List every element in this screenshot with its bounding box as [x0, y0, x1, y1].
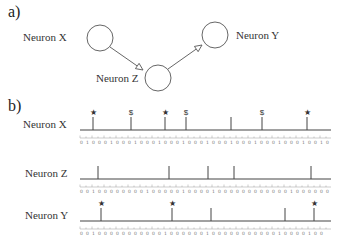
bit-digit: 0: [200, 140, 203, 145]
bit-digit: 0: [134, 189, 137, 194]
bit-digit: 0: [80, 231, 83, 236]
bit-digit: 0: [248, 189, 251, 194]
bit-digit: 0: [194, 231, 197, 236]
bit-digit: 0: [98, 140, 101, 145]
bit-digit: 0: [224, 231, 227, 236]
bit-digit: 0: [320, 189, 323, 194]
bit-digit: 1: [254, 140, 257, 145]
bit-digit: 1: [164, 231, 167, 236]
bit-digit: 0: [212, 231, 215, 236]
bit-digit: 0: [170, 140, 173, 145]
bit-digit: 1: [110, 140, 113, 145]
bit-digit: 0: [272, 189, 275, 194]
bit-digit: 1: [146, 189, 149, 194]
bit-digit: 0: [128, 189, 131, 194]
bit-digit: 0: [212, 140, 215, 145]
bit-digit: 0: [176, 231, 179, 236]
bit-digit: 0: [296, 231, 299, 236]
bit-digit: 0: [308, 189, 311, 194]
bit-digit: 0: [152, 231, 155, 236]
bit-digit: 0: [302, 189, 305, 194]
synapse-triangle-icon: [194, 45, 202, 52]
bit-digit: 0: [260, 189, 263, 194]
bit-digit: 0: [296, 189, 299, 194]
neuron-z-circle: [145, 65, 171, 91]
bit-digit: 1: [290, 189, 293, 194]
bit-digit: 0: [272, 231, 275, 236]
bit-digit: 0: [158, 231, 161, 236]
neuron-x-circle: [87, 25, 113, 51]
bit-digit: 0: [314, 189, 317, 194]
bit-digit: 0: [86, 189, 89, 194]
bit-digit: 0: [194, 140, 197, 145]
bit-digit: 0: [116, 189, 119, 194]
bit-digit: 0: [242, 189, 245, 194]
bit-digit: 0: [128, 140, 131, 145]
bit-digit: 0: [122, 231, 125, 236]
star-marker-icon: ★: [162, 108, 169, 117]
bit-digit: 0: [176, 140, 179, 145]
bit-digit: 1: [230, 140, 233, 145]
star-marker-icon: ★: [169, 199, 176, 208]
bit-digit: 1: [206, 140, 209, 145]
bit-digit: 0: [284, 189, 287, 194]
bit-digit: 0: [200, 231, 203, 236]
bit-digit: 0: [314, 140, 317, 145]
dollar-marker-icon: $: [184, 108, 189, 117]
bit-digit: 0: [308, 140, 311, 145]
bit-digit: 0: [302, 231, 305, 236]
bit-digit: 1: [302, 140, 305, 145]
star-marker-icon: ★: [98, 199, 105, 208]
bit-digit: 0: [158, 189, 161, 194]
bit-digit: 0: [242, 231, 245, 236]
bit-digit: 0: [170, 231, 173, 236]
bit-digit: 0: [86, 231, 89, 236]
bit-digit: 0: [188, 189, 191, 194]
bit-digit: 0: [206, 189, 209, 194]
bit-digit: 0: [218, 189, 221, 194]
bit-digit: 1: [182, 189, 185, 194]
neuron-diagram: ★$★$$★0100010001000100010001000100010001…: [0, 0, 344, 243]
bit-digit: 0: [140, 231, 143, 236]
bit-digit: 0: [284, 140, 287, 145]
bit-digit: 0: [290, 140, 293, 145]
bit-digit: 0: [266, 189, 269, 194]
bit-digit: 1: [278, 231, 281, 236]
bit-digit: 0: [218, 231, 221, 236]
bit-digit: 1: [158, 140, 161, 145]
star-marker-icon: ★: [311, 199, 318, 208]
bit-digit: 0: [80, 189, 83, 194]
bit-digit: 1: [212, 189, 215, 194]
bit-digit: 0: [260, 140, 263, 145]
bit-digit: 0: [272, 140, 275, 145]
bit-digit: 0: [110, 189, 113, 194]
bit-digit: 0: [98, 231, 101, 236]
bit-digit: 0: [146, 231, 149, 236]
bit-digit: 0: [248, 231, 251, 236]
bit-digit: 0: [278, 189, 281, 194]
bit-digit: 1: [182, 140, 185, 145]
bit-digit: 0: [122, 140, 125, 145]
bit-digit: 0: [140, 140, 143, 145]
synapse-triangle-icon: [135, 63, 143, 70]
bit-digit: 0: [236, 231, 239, 236]
bit-digit: 0: [296, 140, 299, 145]
connection-z-y: [168, 49, 196, 69]
bit-digit: 0: [224, 140, 227, 145]
bit-digit: 0: [230, 189, 233, 194]
dollar-marker-icon: $: [129, 108, 134, 117]
bit-digit: 1: [92, 231, 95, 236]
bit-digit: 0: [188, 140, 191, 145]
bit-digit: 0: [200, 189, 203, 194]
bit-digit: 0: [254, 189, 257, 194]
bit-digit: 0: [236, 189, 239, 194]
bit-digit: 0: [266, 231, 269, 236]
bit-digit: 0: [314, 231, 317, 236]
bit-digit: 0: [116, 140, 119, 145]
bit-digit: 0: [128, 231, 131, 236]
bit-digit: 0: [326, 140, 329, 145]
bit-digit: 0: [98, 189, 101, 194]
bit-digit: 0: [164, 189, 167, 194]
bit-digit: 1: [86, 140, 89, 145]
bit-digit: 0: [104, 231, 107, 236]
